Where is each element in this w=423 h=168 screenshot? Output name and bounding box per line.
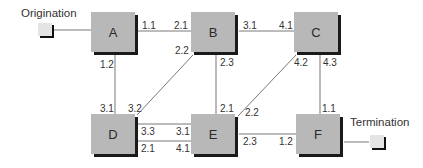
node-e[interactable]: E <box>191 114 235 154</box>
origination-label: Origination <box>21 7 77 19</box>
port-label: 3.3 <box>141 127 155 137</box>
port-label: 4.1 <box>176 144 190 154</box>
node-c[interactable]: C <box>294 12 338 52</box>
port-label: 4.1 <box>279 21 293 31</box>
port-label: 1.1 <box>142 21 156 31</box>
node-a[interactable]: A <box>91 12 135 52</box>
node-f-label: F <box>314 127 322 142</box>
node-b-label: B <box>209 25 218 40</box>
port-label: 2.1 <box>174 21 188 31</box>
port-label: 2.3 <box>220 58 234 68</box>
termination-endpoint[interactable] <box>370 135 384 148</box>
node-c-label: C <box>311 25 320 40</box>
port-label: 3.1 <box>100 104 114 114</box>
port-label: 1.1 <box>322 104 336 114</box>
port-label: 1.2 <box>279 137 293 147</box>
port-label: 2.1 <box>220 104 234 114</box>
port-label: 2.1 <box>141 144 155 154</box>
port-label: 3.1 <box>243 21 257 31</box>
termination-label: Termination <box>350 116 409 128</box>
port-label: 2.3 <box>243 137 257 147</box>
node-b[interactable]: B <box>191 12 235 52</box>
port-label: 2.2 <box>175 46 189 56</box>
node-e-label: E <box>209 127 218 142</box>
port-label: 4.3 <box>323 58 337 68</box>
port-label: 4.2 <box>294 58 308 68</box>
node-d-label: D <box>108 127 117 142</box>
port-label: 1.2 <box>100 60 114 70</box>
node-d[interactable]: D <box>91 114 135 154</box>
node-f[interactable]: F <box>296 114 340 154</box>
port-label: 3.2 <box>128 104 142 114</box>
port-label: 3.1 <box>176 127 190 137</box>
port-label: 2.2 <box>245 108 259 118</box>
origination-endpoint[interactable] <box>38 23 52 36</box>
node-a-label: A <box>109 25 118 40</box>
